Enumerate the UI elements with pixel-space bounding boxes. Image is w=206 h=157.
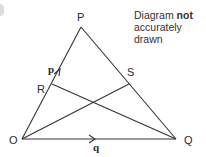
- diagram-canvas: P O Q R S p q Diagram not accurately dra…: [0, 0, 206, 157]
- note-prefix: Diagram: [134, 9, 177, 21]
- accuracy-note: Diagram not accurately drawn: [134, 9, 206, 45]
- label-R: R: [37, 84, 45, 95]
- label-Q: Q: [184, 135, 193, 146]
- label-S: S: [127, 67, 134, 78]
- label-O: O: [9, 135, 18, 146]
- vector-label-p: p: [48, 64, 54, 75]
- note-bold: not: [177, 9, 193, 21]
- segment-OP: [22, 27, 81, 139]
- note-line2: accurately: [134, 21, 182, 33]
- vector-label-q: q: [93, 142, 99, 153]
- note-line3: drawn: [134, 33, 163, 45]
- label-P: P: [77, 12, 84, 23]
